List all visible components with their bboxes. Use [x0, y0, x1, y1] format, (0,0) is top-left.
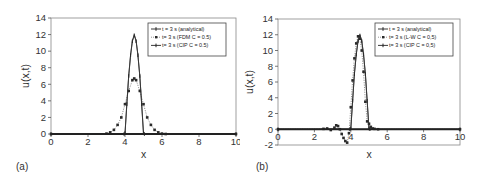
data-marker: [342, 137, 345, 140]
legend-entry: t = 3 s (analytical): [389, 26, 432, 32]
y-tick-label: 8: [41, 62, 46, 73]
chart-panel-a: 024681012140246810xu(x,t)(a)t = 3 s (ana…: [0, 0, 240, 181]
panel-label: (a): [16, 161, 28, 172]
y-axis-title: u(x,t): [19, 64, 31, 88]
y-tick-label: 10: [35, 45, 46, 56]
y-tick-label: 2: [268, 108, 273, 119]
x-tick-label: 8: [196, 136, 201, 147]
data-marker: [120, 116, 123, 119]
x-tick-label: 6: [159, 136, 164, 147]
x-tick-label: 10: [231, 136, 240, 147]
y-tick-label: 8: [268, 61, 273, 72]
data-marker: [135, 79, 138, 82]
data-marker: [146, 116, 149, 119]
y-tick-label: 6: [268, 76, 273, 87]
legend: t = 3 s (analytical)t= 3 s (L-W C = 0,5)…: [375, 23, 453, 56]
data-marker: [340, 133, 343, 136]
data-marker: [337, 125, 340, 128]
x-axis-title: x: [366, 148, 372, 160]
y-tick-label: 14: [262, 13, 273, 24]
data-marker: [348, 132, 351, 135]
chart-panel-b: -2024681012140246810xu(x,t)(b)t = 3 s (a…: [240, 0, 479, 181]
y-tick-label: 10: [262, 45, 273, 56]
data-marker: [353, 57, 356, 60]
data-marker: [150, 124, 153, 127]
legend-entry: t= 3 s (FDM C = 0.5): [162, 34, 211, 40]
data-marker: [364, 100, 367, 103]
y-tick-label: -2: [265, 139, 273, 150]
x-tick-label: 8: [421, 131, 426, 142]
y-tick-label: 14: [35, 12, 46, 23]
legend-entry: t= 3 s (CIP C = 0,5): [389, 42, 436, 48]
y-tick-label: 0: [41, 128, 46, 139]
chart-a-svg: 024681012140246810xu(x,t)(a)t = 3 s (ana…: [0, 0, 240, 181]
x-axis-title: x: [141, 148, 147, 160]
y-tick-label: 2: [41, 112, 46, 123]
x-tick-label: 2: [312, 131, 317, 142]
y-tick-label: 6: [41, 79, 46, 90]
legend: t = 3 s (analytical)t= 3 s (FDM C = 0.5)…: [148, 23, 226, 56]
y-tick-label: 12: [35, 29, 46, 40]
panel-label: (b): [256, 161, 268, 172]
y-tick-label: 4: [268, 92, 273, 103]
data-marker: [153, 129, 156, 132]
data-marker: [124, 103, 127, 106]
y-tick-label: 4: [41, 95, 46, 106]
x-tick-label: 6: [385, 131, 390, 142]
x-tick-label: 0: [48, 136, 53, 147]
legend-entry: t= 3 s (L-W C = 0,5): [389, 34, 437, 40]
x-tick-label: 2: [85, 136, 90, 147]
series-line: [51, 79, 236, 135]
legend-entry: t= 3 s (CIP C = 0.5): [162, 42, 209, 48]
x-tick-label: 10: [455, 131, 466, 142]
y-tick-label: 0: [268, 124, 273, 135]
x-tick-label: 4: [122, 136, 127, 147]
legend-entry: t = 3 s (analytical): [162, 26, 205, 32]
data-marker: [113, 129, 116, 132]
chart-b-svg: -2024681012140246810xu(x,t)(b)t = 3 s (a…: [240, 0, 479, 181]
x-tick-label: 0: [275, 131, 280, 142]
data-marker: [362, 70, 365, 73]
data-marker: [142, 103, 145, 106]
data-marker: [116, 124, 119, 127]
y-tick-label: 12: [262, 29, 273, 40]
y-axis-title: u(x,t): [243, 70, 255, 94]
data-marker: [346, 141, 349, 144]
